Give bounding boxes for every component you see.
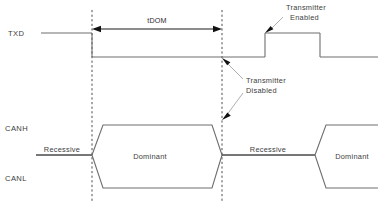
- bus-state-label-dominant-1: Dominant: [133, 152, 167, 161]
- signal-label-canl: CANL: [5, 174, 27, 183]
- signal-label-group: TXD CANH CANL: [5, 29, 28, 183]
- transmitter-disabled-annotation-group: Transmitter Disabled: [222, 58, 286, 120]
- tdom-arrow-head-right: [213, 26, 222, 32]
- signal-label-txd: TXD: [8, 29, 25, 38]
- bus-state-label-recessive-2: Recessive: [250, 145, 286, 154]
- bus-state-label-recessive-1: Recessive: [44, 145, 80, 154]
- transmitter-disabled-arrow-head-upper: [222, 58, 230, 65]
- transmitter-enabled-label-line2: Enabled: [290, 13, 319, 22]
- txd-waveform-group: [41, 33, 378, 57]
- transmitter-enabled-annotation-group: Transmitter Enabled: [265, 3, 326, 33]
- tdom-label: tDOM: [147, 16, 167, 25]
- can-bus-waveform-group: [36, 125, 378, 188]
- transmitter-disabled-label-line2: Disabled: [246, 86, 277, 95]
- transmitter-enabled-arrow-head: [265, 26, 273, 33]
- transmitter-enabled-label-line1: Transmitter: [286, 3, 326, 12]
- transmitter-disabled-leader-line-upper: [226, 62, 243, 79]
- timing-diagram-svg: tDOM Transmitter Enabled Transmitter Dis…: [0, 0, 382, 213]
- signal-label-canh: CANH: [5, 124, 28, 133]
- bus-state-label-dominant-2: Dominant: [335, 152, 369, 161]
- canh-dominant-envelope-1: [92, 125, 222, 155]
- transmitter-disabled-label-line1: Transmitter: [246, 76, 286, 85]
- transmitter-disabled-arrow-head-lower: [222, 113, 231, 120]
- tdom-arrow-head-left: [92, 26, 101, 32]
- transmitter-disabled-leader-line-lower: [226, 93, 243, 116]
- timing-diagram-canvas: tDOM Transmitter Enabled Transmitter Dis…: [0, 0, 382, 213]
- tdom-dimension-group: tDOM: [92, 16, 222, 32]
- canh-dominant-envelope-2: [315, 125, 378, 155]
- marker-group: [92, 10, 222, 201]
